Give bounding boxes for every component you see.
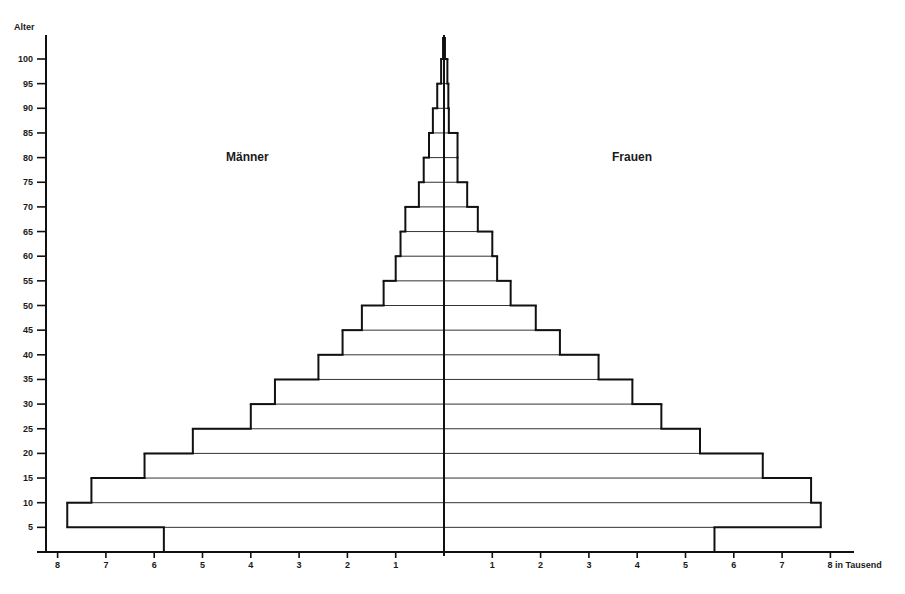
x-tick-label-left: 4 — [248, 560, 253, 570]
x-tick-label-right: 5 — [683, 560, 688, 570]
y-tick-label: 50 — [23, 301, 33, 311]
y-tick-label: 20 — [23, 448, 33, 458]
x-tick-label-right: 3 — [586, 560, 591, 570]
y-tick-label: 85 — [23, 128, 33, 138]
x-tick-label-left: 5 — [200, 560, 205, 570]
y-tick-label: 60 — [23, 251, 33, 261]
y-tick-label: 95 — [23, 79, 33, 89]
x-tick-label-right: 6 — [731, 560, 736, 570]
y-tick-label: 35 — [23, 374, 33, 384]
x-tick-label-left: 6 — [152, 560, 157, 570]
population-pyramid-chart: Alter Männer Frauen 51015202530354045505… — [0, 0, 905, 594]
y-tick-label: 5 — [28, 522, 33, 532]
y-tick-label: 40 — [23, 350, 33, 360]
y-tick-label: 15 — [23, 473, 33, 483]
x-tick-label-left: 3 — [297, 560, 302, 570]
y-tick-label: 45 — [23, 325, 33, 335]
y-tick-label: 75 — [23, 177, 33, 187]
x-tick-label-left: 2 — [345, 560, 350, 570]
y-tick-label: 55 — [23, 276, 33, 286]
axes: 5101520253035404550556065707580859095100… — [18, 35, 882, 570]
y-tick-label: 70 — [23, 202, 33, 212]
y-tick-label: 30 — [23, 399, 33, 409]
x-tick-label-right: 4 — [635, 560, 640, 570]
y-tick-label: 65 — [23, 227, 33, 237]
x-tick-label-right: 1 — [490, 560, 495, 570]
y-tick-label: 25 — [23, 424, 33, 434]
y-tick-label: 100 — [18, 54, 33, 64]
men-label: Männer — [226, 150, 269, 164]
x-tick-label-left: 1 — [393, 560, 398, 570]
x-tick-label-right: 7 — [780, 560, 785, 570]
y-axis-title: Alter — [14, 22, 35, 32]
y-tick-label: 10 — [23, 498, 33, 508]
women-label: Frauen — [612, 150, 652, 164]
x-tick-label-right: 8 in Tausend — [827, 560, 881, 570]
x-tick-label-right: 2 — [538, 560, 543, 570]
x-tick-label-left: 8 — [55, 560, 60, 570]
y-tick-label: 80 — [23, 153, 33, 163]
y-tick-label: 90 — [23, 103, 33, 113]
x-tick-label-left: 7 — [103, 560, 108, 570]
